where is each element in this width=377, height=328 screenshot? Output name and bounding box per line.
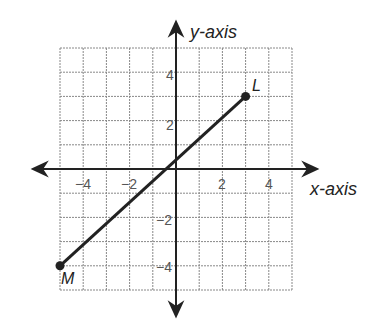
x-tick: −2 [121,176,137,192]
y-tick: −4 [156,259,172,275]
point-m-label: M [61,270,75,287]
point-m [56,261,65,270]
x-axis-label: x-axis [309,179,357,199]
coordinate-plane: y-axis x-axis L M −4 −2 2 4 4 2 −2 −4 [0,0,377,328]
y-tick: −2 [156,212,172,228]
y-axis-label: y-axis [188,22,237,42]
y-tick: 4 [166,67,174,83]
x-tick: 4 [265,176,273,192]
point-l-label: L [252,77,261,94]
point-l [241,92,250,101]
x-tick: −4 [75,176,91,192]
x-tick: 2 [218,176,226,192]
y-tick: 2 [166,117,174,133]
